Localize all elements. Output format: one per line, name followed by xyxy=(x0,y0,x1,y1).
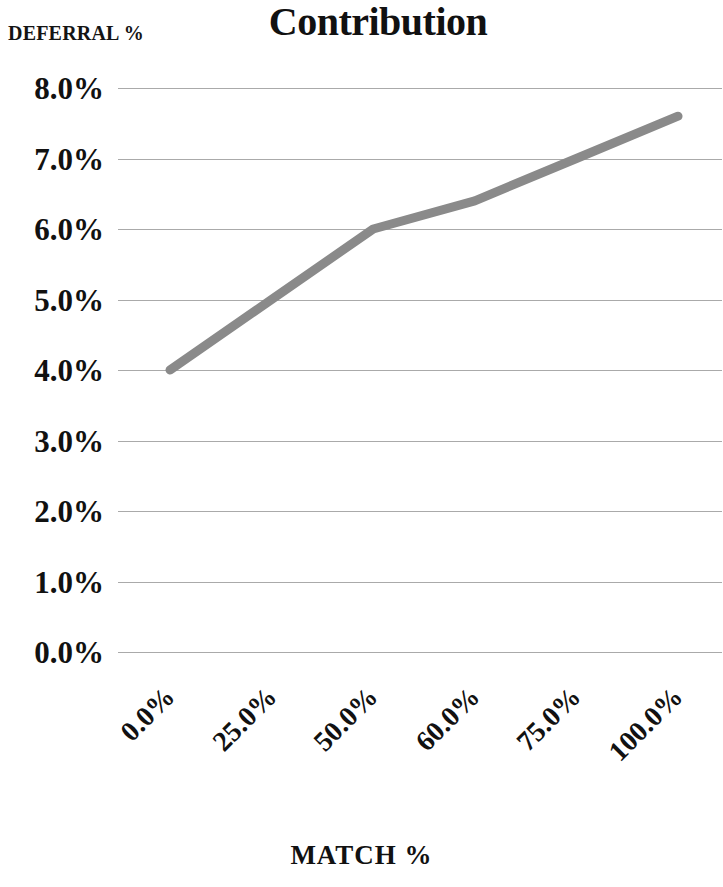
y-axis-tick-label: 8.0% xyxy=(0,73,104,104)
y-axis-title: DEFERRAL % xyxy=(8,22,144,45)
y-axis-tick-label: 7.0% xyxy=(0,143,104,174)
plot-area: 8.0%7.0%6.0%5.0%4.0%3.0%2.0%1.0%0.0% xyxy=(118,88,722,652)
x-axis-title: MATCH % xyxy=(0,840,723,871)
y-axis-tick-label: 5.0% xyxy=(0,284,104,315)
chart-container: Contribution DEFERRAL % 8.0%7.0%6.0%5.0%… xyxy=(0,0,723,887)
y-axis-tick-label: 0.0% xyxy=(0,637,104,668)
data-series-line xyxy=(118,88,722,652)
gridline xyxy=(118,652,722,653)
y-axis-tick-label: 4.0% xyxy=(0,355,104,386)
x-axis-tick-labels: 0.0%25.0%50.0%60.0%75.0%100.0% xyxy=(0,664,723,824)
y-axis-tick-label: 3.0% xyxy=(0,425,104,456)
y-axis-tick-label: 1.0% xyxy=(0,566,104,597)
y-axis-tick-label: 2.0% xyxy=(0,496,104,527)
y-axis-tick-label: 6.0% xyxy=(0,214,104,245)
chart-title: Contribution xyxy=(228,0,528,46)
